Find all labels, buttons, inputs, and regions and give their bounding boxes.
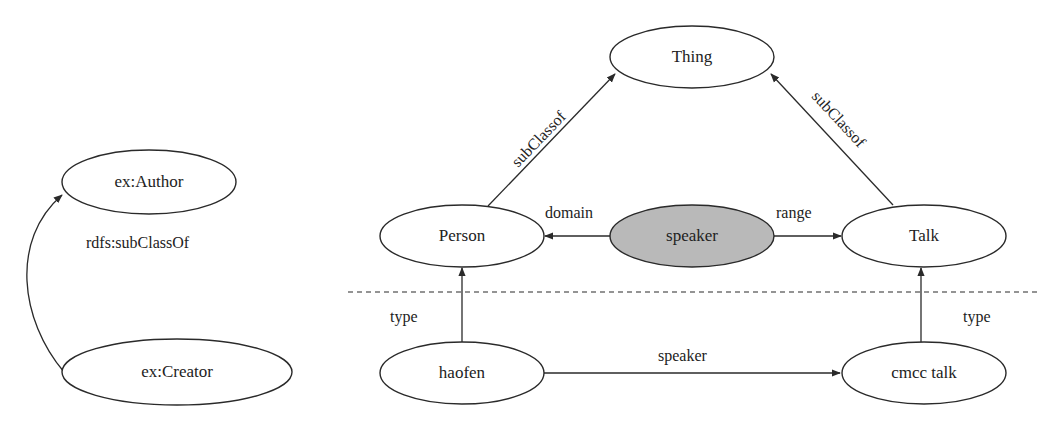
node-haofen[interactable]: haofen <box>380 342 544 404</box>
node-label: haofen <box>439 363 486 382</box>
right-diagram: subClassof subClassof domain range type … <box>348 26 1040 404</box>
edge-label-talk-subclassof: subClassof <box>809 87 870 150</box>
subclassof-edge-creator-author <box>27 195 64 372</box>
node-talk[interactable]: Talk <box>842 205 1006 267</box>
node-label: speaker <box>666 226 718 245</box>
edge-label-instance-speaker: speaker <box>658 347 708 365</box>
node-thing[interactable]: Thing <box>610 26 774 88</box>
left-diagram: rdfs:subClassOf ex:Author ex:Creator <box>27 150 292 405</box>
node-label: Thing <box>672 47 713 66</box>
node-label: cmcc talk <box>891 363 957 382</box>
node-label: Person <box>439 226 486 245</box>
subclassof-edge-person-thing <box>488 74 615 206</box>
subclassof-edge-talk-thing <box>771 74 893 205</box>
rdf-schema-diagram: rdfs:subClassOf ex:Author ex:Creator sub… <box>0 0 1047 428</box>
node-ex-author[interactable]: ex:Author <box>62 150 236 214</box>
edge-label-cmcc-type: type <box>963 308 991 326</box>
node-cmcc-talk[interactable]: cmcc talk <box>842 342 1006 404</box>
node-label: ex:Author <box>115 172 184 191</box>
edge-label-person-subclassof: subClassof <box>508 107 569 170</box>
edge-label-domain: domain <box>545 204 593 221</box>
node-speaker-property[interactable]: speaker <box>610 205 774 267</box>
edge-label-rdfs-subclassof: rdfs:subClassOf <box>86 234 190 251</box>
edge-label-range: range <box>776 204 812 222</box>
node-person[interactable]: Person <box>380 205 544 267</box>
node-label: ex:Creator <box>141 362 213 381</box>
node-label: Talk <box>909 226 939 245</box>
edge-label-haofen-type: type <box>390 308 418 326</box>
node-ex-creator[interactable]: ex:Creator <box>62 339 292 405</box>
